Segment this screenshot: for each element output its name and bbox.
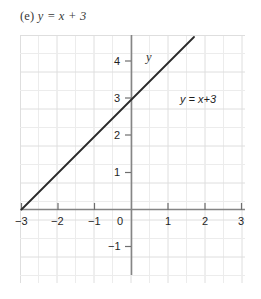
graph-canvas xyxy=(20,35,245,283)
grid-lines xyxy=(20,35,245,283)
curve-equation-text: y = x+3 xyxy=(180,93,216,105)
y-axis-label: y xyxy=(146,50,152,65)
figure-linear-graph: (e) y = x + 3 xyxy=(0,0,261,299)
figure-caption: (e) y = x + 3 xyxy=(20,9,86,24)
curve-equation-label: y = x+3 xyxy=(180,93,216,105)
y-tick-label-neg1: −1 xyxy=(108,240,121,252)
y-tick-label-4: 4 xyxy=(114,55,120,67)
y-tick-label-1: 1 xyxy=(114,166,120,178)
y-axis-ticks xyxy=(125,61,131,247)
y-tick-label-2: 2 xyxy=(114,129,120,141)
caption-equation: y = x + 3 xyxy=(38,9,87,23)
x-tick-label-neg1: −1 xyxy=(88,215,101,227)
x-tick-label-1: 1 xyxy=(165,215,171,227)
y-tick-label-3: 3 xyxy=(114,92,120,104)
x-tick-label-2: 2 xyxy=(202,215,208,227)
plot-area: y x y = x+3 −3 −2 −1 0 1 2 3 4 3 2 1 −1 xyxy=(20,35,245,283)
x-tick-label-3: 3 xyxy=(238,215,244,227)
x-tick-label-neg2: −2 xyxy=(51,215,64,227)
x-tick-label-0: 0 xyxy=(117,215,123,227)
x-tick-label-neg3: −3 xyxy=(15,215,28,227)
caption-index: (e) xyxy=(20,9,34,23)
